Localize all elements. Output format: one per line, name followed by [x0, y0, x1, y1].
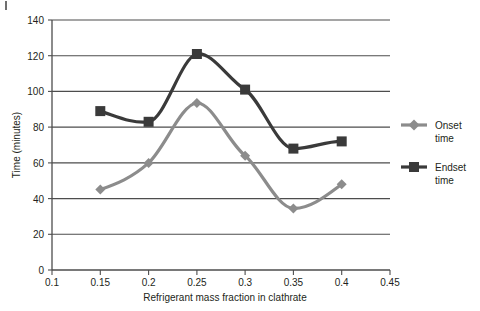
- y-tick-label-0: 0: [38, 265, 44, 276]
- legend-endset-square-icon: [409, 162, 419, 172]
- x-tick-label-0.4: 0.4: [335, 277, 349, 288]
- x-tick-label-0.25: 0.25: [187, 277, 207, 288]
- y-tick-label-60: 60: [33, 158, 45, 169]
- x-axis-title: Refrigerant mass fraction in clathrate: [143, 292, 307, 303]
- x-tick-label-0.35: 0.35: [284, 277, 304, 288]
- y-tick-label-40: 40: [33, 194, 45, 205]
- y-tick-label-20: 20: [33, 229, 45, 240]
- chart-figure: 140 120 100 80 60 40 20 0 0.1 0.15 0.2 0…: [0, 0, 480, 311]
- scan-artifact-mark: [5, 1, 7, 10]
- y-axis-title: Time (minutes): [11, 112, 22, 178]
- y-tick-label-100: 100: [27, 86, 44, 97]
- y-tick-label-120: 120: [27, 51, 44, 62]
- x-tick-label-0.3: 0.3: [238, 277, 252, 288]
- x-tick-label-0.1: 0.1: [45, 277, 59, 288]
- legend-onset-label-line2: time: [435, 133, 454, 144]
- legend-endset-label-line2: time: [435, 175, 454, 186]
- endset-marker-0.2: [144, 117, 154, 127]
- endset-marker-0.15: [95, 106, 105, 116]
- endset-marker-0.25: [192, 49, 202, 59]
- endset-marker-0.4: [337, 136, 347, 146]
- legend-onset-label-line1: Onset: [435, 120, 462, 131]
- x-tick-label-0.2: 0.2: [142, 277, 156, 288]
- line-chart-canvas: 140 120 100 80 60 40 20 0 0.1 0.15 0.2 0…: [0, 0, 480, 311]
- y-tick-label-140: 140: [27, 15, 44, 26]
- endset-marker-0.35: [288, 144, 298, 154]
- endset-marker-0.3: [240, 85, 250, 95]
- y-tick-label-80: 80: [33, 122, 45, 133]
- chart-background: [0, 0, 480, 311]
- legend-endset-label-line1: Endset: [435, 162, 466, 173]
- x-tick-label-0.15: 0.15: [91, 277, 111, 288]
- x-tick-label-0.45: 0.45: [380, 277, 400, 288]
